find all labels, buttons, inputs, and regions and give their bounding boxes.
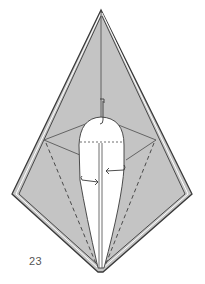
step-number: 23 [29,255,42,267]
origami-diagram [0,0,205,284]
